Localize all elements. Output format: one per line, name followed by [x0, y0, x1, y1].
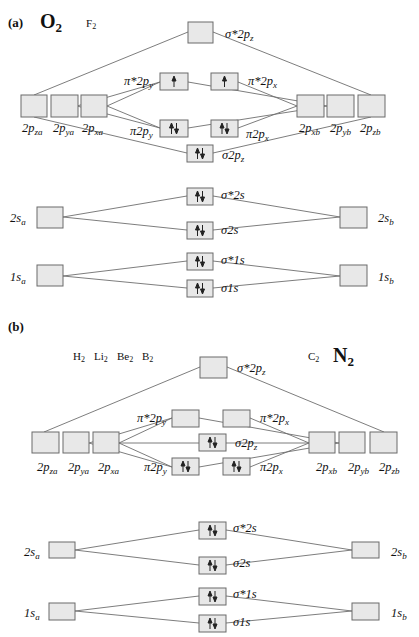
orbital-2pyb: 2pyb — [327, 95, 354, 137]
orbital-2pza: 2pza — [32, 432, 59, 476]
orbital-box — [188, 22, 213, 43]
orbital-label: π2py — [130, 124, 153, 140]
correlation-line — [75, 596, 199, 611]
orbital-pi-star-2px: π*2px — [223, 410, 289, 427]
correlation-lines — [44, 367, 384, 623]
correlation-line — [75, 530, 199, 550]
orbital-pi-2py: π2py — [130, 120, 188, 140]
orbital-box — [352, 603, 379, 620]
orbital-box — [309, 432, 335, 453]
orbital-label: π*2px — [248, 74, 277, 90]
orbital-2pxa: 2pxa — [93, 432, 119, 476]
orbital-box — [340, 207, 367, 228]
orbital-pi-2px: π2px — [223, 458, 283, 476]
orbital-pi-star-2py: π*2py — [124, 73, 188, 90]
orbital-label: π*2py — [137, 411, 166, 427]
correlation-line — [75, 611, 199, 623]
orbital-box — [327, 95, 354, 117]
molecule-label: H2 — [73, 350, 85, 364]
orbital-label: σ1s — [221, 281, 238, 295]
correlation-line — [63, 217, 187, 230]
orbital-label: 2pxb — [316, 460, 337, 476]
orbital-2pxb: 2pxb — [309, 432, 337, 476]
orbital-sigma-star-2pz: σ*2pz — [200, 357, 266, 378]
orbital-box — [93, 432, 119, 453]
panel-label-b: (b) — [8, 319, 24, 334]
correlation-line — [227, 367, 384, 432]
correlation-line — [63, 196, 187, 217]
orbital-label: 2pzb — [379, 460, 400, 476]
orbital-box — [37, 207, 63, 228]
molecule-label: F2 — [86, 17, 96, 31]
orbital-label: σ*2pz — [237, 361, 266, 377]
molecule-label: C2 — [308, 350, 319, 364]
correlation-line — [75, 550, 199, 565]
orbital-2pzb: 2pzb — [358, 95, 385, 137]
orbital-box — [340, 265, 367, 286]
orbital-label: 2sb — [378, 211, 394, 227]
correlation-line — [238, 106, 297, 128]
mo-energy-diagram: (a)(b)O2F2σ*2pz2pza2pya2pxaπ*2pyπ*2pxπ2p… — [0, 0, 419, 637]
orbital-label: 2pya — [53, 121, 74, 137]
orbital-label: 2pxa — [82, 121, 103, 137]
correlation-line — [250, 443, 309, 467]
orbital-label: 2sb — [391, 545, 407, 561]
orbital-2sb: 2sb — [352, 542, 407, 561]
orbital-1sa: 1sa — [24, 603, 75, 622]
orbital-label: π*2py — [124, 74, 153, 90]
molecule-label: B2 — [142, 350, 153, 364]
orbital-box — [21, 95, 47, 117]
orbital-box — [339, 432, 365, 453]
orbital-box — [32, 432, 59, 453]
orbital-label: σ*2s — [233, 521, 257, 535]
orbital-label: 2pxa — [98, 460, 119, 476]
orbital-box — [352, 542, 379, 558]
orbital-2pxa: 2pxa — [81, 95, 107, 137]
orbital-box — [51, 95, 78, 117]
orbital-label: σ*2pz — [225, 27, 254, 43]
molecule-label: N2 — [333, 344, 354, 369]
molecule-label: Li2 — [94, 350, 108, 364]
orbital-label: π2py — [144, 460, 167, 476]
orbital-label: 2pya — [68, 460, 89, 476]
orbital-2sb: 2sb — [340, 207, 394, 228]
orbital-box — [37, 265, 63, 286]
orbital-label: σ1s — [233, 615, 250, 629]
orbital-2pya: 2pya — [63, 432, 89, 476]
orbital-label: π*2px — [260, 411, 289, 427]
orbital-label: σ*2s — [221, 188, 245, 202]
orbital-label: σ*1s — [221, 253, 245, 267]
orbital-label: σ2s — [233, 556, 250, 570]
orbital-label: 1sb — [378, 270, 394, 286]
orbital-pi-star-2py: π*2py — [137, 410, 199, 427]
panel-label-a: (a) — [8, 15, 23, 30]
orbital-label: 1sa — [24, 606, 40, 622]
orbital-label: π2px — [260, 460, 283, 476]
orbital-box — [81, 95, 107, 117]
orbital-label: 1sb — [391, 606, 407, 622]
orbital-1sa: 1sa — [10, 265, 63, 286]
orbital-2pya: 2pya — [51, 95, 78, 137]
orbital-2pzb: 2pzb — [370, 432, 400, 476]
orbital-pi-2px: π2px — [211, 120, 269, 143]
correlation-line — [63, 276, 187, 288]
orbital-box — [49, 603, 75, 620]
orbital-label: 1sa — [10, 270, 26, 286]
orbital-sigma-star-2pz: σ*2pz — [188, 22, 254, 43]
orbital-label: 2pza — [37, 460, 58, 476]
molecule-label: Be2 — [117, 350, 133, 364]
panel-b: H2Li2Be2B2C2N2σ*2pz2pza2pya2pxaπ*2pyπ*2p… — [24, 344, 407, 632]
orbital-box — [370, 432, 397, 453]
orbital-1sb: 1sb — [340, 265, 394, 286]
orbital-pi-2py: π2py — [144, 458, 199, 476]
orbital-box — [223, 410, 250, 427]
orbital-sigma-1s: σ1s — [199, 615, 250, 632]
orbital-label: 2sa — [24, 545, 40, 561]
orbital-box — [63, 432, 89, 453]
panel-a: O2F2σ*2pz2pza2pya2pxaπ*2pyπ*2pxπ2pyπ2pxσ… — [10, 10, 394, 297]
orbital-label: 2pyb — [348, 460, 369, 476]
orbital-box — [49, 542, 75, 558]
orbital-box — [172, 410, 199, 427]
orbital-2pxb: 2pxb — [297, 95, 324, 137]
orbital-label: 2sa — [10, 211, 26, 227]
